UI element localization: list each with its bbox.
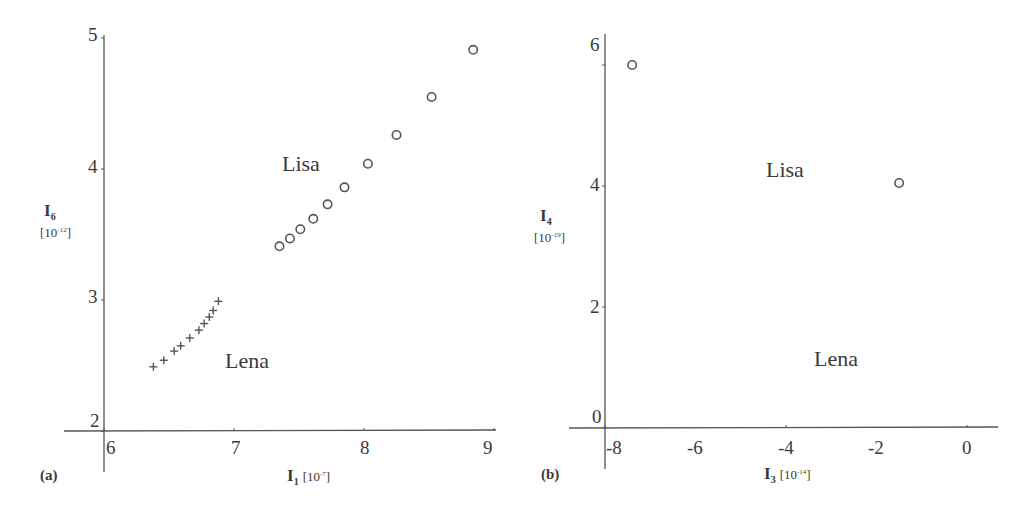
x-axis-subscript: 3 (771, 474, 776, 485)
y-axis-unit-base: [10 (40, 225, 57, 240)
data-point-circle-lisa (309, 215, 317, 223)
x-axis-unit-base: [10 (780, 467, 797, 482)
x-axis-title-a: I1 [10-7] (287, 466, 330, 487)
x-axis-unit-exp: -14 (797, 468, 806, 476)
data-point-circle-lisa (427, 93, 435, 101)
y-axis-symbol: I (540, 206, 547, 225)
y-axis-unit-close: ] (67, 225, 71, 240)
y-axis-subscript: 6 (51, 211, 56, 222)
y-axis-unit-close: ] (561, 230, 565, 245)
data-point-plus-lena (209, 306, 217, 314)
x-axis-subscript: 1 (294, 476, 299, 487)
y-axis-subscript: 4 (547, 216, 552, 227)
data-point-plus-lena (205, 313, 213, 321)
data-point-circle-lisa (323, 200, 331, 208)
data-point-plus-lena (200, 320, 208, 328)
plot-area-b (514, 0, 1028, 511)
data-point-plus-lena (149, 363, 157, 371)
x-axis-line (64, 430, 496, 431)
y-tick-label: 4 (88, 156, 98, 178)
data-point-plus-lena (160, 356, 168, 364)
data-point-plus-lena (170, 347, 178, 355)
x-tick-label: -8 (606, 437, 622, 459)
x-axis-line (569, 427, 998, 428)
data-point-plus-lena (177, 342, 185, 350)
data-point-circle-lisa (286, 234, 294, 242)
annotation-lisa: Lisa (282, 151, 320, 177)
x-tick-label: 9 (483, 437, 493, 459)
panel-tag-b: (b) (541, 466, 559, 483)
x-tick-label: 8 (360, 437, 370, 459)
x-axis-unit-close: ] (806, 467, 810, 482)
panel-tag-a: (a) (40, 467, 58, 484)
x-tick-label: -4 (778, 437, 794, 459)
annotation-lena: Lena (225, 348, 269, 374)
x-axis-symbol: I (764, 464, 771, 483)
y-axis-unit-exp: -19 (551, 231, 560, 239)
plot-area-a (0, 0, 514, 511)
data-point-circle-lisa (392, 131, 400, 139)
x-tick-label: -2 (868, 437, 884, 459)
data-point-circle-lisa (364, 160, 372, 168)
annotation-lena: Lena (814, 346, 858, 372)
x-tick-label: 6 (106, 437, 116, 459)
y-tick-label: 6 (590, 34, 600, 56)
chart-panel-b: 6 4 2 0 -8 -6 -4 -2 0 Lisa Lena I4 [10-1… (514, 0, 1028, 511)
x-tick-label: -6 (687, 437, 703, 459)
data-point-circle-lisa (296, 225, 304, 233)
data-point-plus-lena (186, 334, 194, 342)
data-point-plus-lena (195, 326, 203, 334)
data-point-circle-lisa (469, 46, 477, 54)
y-axis-unit-base: [10 (534, 230, 551, 245)
data-point-circle-lisa (340, 183, 348, 191)
y-tick-label: 3 (88, 286, 98, 308)
y-axis-title-b: I4 [10-19] (534, 207, 565, 244)
y-tick-label: 0 (592, 406, 602, 428)
x-axis-symbol: I (287, 466, 294, 485)
data-point-circle-lisa (895, 179, 903, 187)
x-axis-title-b: I3 [10-14] (764, 464, 811, 485)
y-axis-title-a: I6 [10-12] (40, 202, 71, 239)
y-tick-label: 4 (590, 174, 600, 196)
y-tick-label: 2 (90, 410, 100, 432)
data-point-circle-lisa (628, 61, 636, 69)
x-axis-unit-base: [10 (303, 469, 320, 484)
data-point-plus-lena (214, 297, 222, 305)
annotation-lisa: Lisa (766, 157, 804, 183)
y-tick-label: 2 (590, 296, 600, 318)
chart-panel-a: 5 4 3 2 6 7 8 9 Lisa Lena I6 [10-12] I1 … (0, 0, 514, 511)
y-tick-label: 5 (88, 24, 98, 46)
x-axis-unit-close: ] (326, 469, 330, 484)
x-tick-label: 7 (231, 437, 241, 459)
x-tick-label: 0 (962, 437, 972, 459)
data-point-circle-lisa (275, 242, 283, 250)
y-axis-symbol: I (44, 201, 51, 220)
y-axis-unit-exp: -12 (57, 226, 66, 234)
